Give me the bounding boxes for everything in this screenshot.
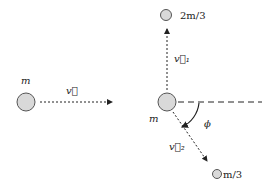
angle-label: ϕ bbox=[204, 118, 211, 129]
fragment2-velocity-arrow bbox=[173, 112, 207, 161]
fragment1-ball bbox=[161, 10, 172, 21]
fragment2-velocity-label: v⃗₂ bbox=[169, 141, 185, 152]
fragment1-mass-label: 2m/3 bbox=[180, 10, 206, 21]
incoming-velocity-label: v⃗ bbox=[66, 85, 78, 96]
incoming-ball bbox=[17, 93, 35, 111]
fragment2-ball bbox=[213, 170, 222, 179]
center-ball bbox=[158, 93, 176, 111]
collision-diagram: m v⃗ m 2m/3 v⃗₁ m/3 v⃗₂ ϕ bbox=[0, 0, 266, 188]
fragment1-velocity-label: v⃗₁ bbox=[174, 53, 190, 64]
angle-arc bbox=[182, 103, 199, 127]
center-mass-label: m bbox=[149, 113, 158, 124]
fragment2-mass-label: m/3 bbox=[223, 169, 242, 180]
incoming-mass-label: m bbox=[21, 75, 30, 86]
